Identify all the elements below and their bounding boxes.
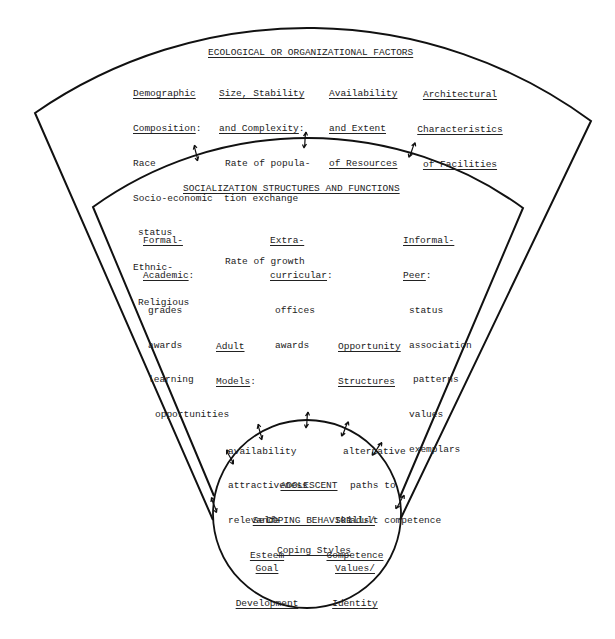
list-item: offices (270, 305, 333, 317)
heading-line: Adult (216, 341, 245, 352)
heading-line: Architectural (423, 89, 497, 100)
list-item: availability (216, 446, 308, 458)
ecological-title: ECOLOGICAL OR ORGANIZATIONAL FACTORS (208, 47, 413, 59)
heading-line: Informal- (403, 235, 454, 246)
heading-line: curricular (270, 270, 327, 281)
heading-suffix: : (299, 123, 305, 134)
heading-line: ADOLESCENT (280, 480, 337, 491)
heading-line: and Extent (329, 123, 386, 134)
heading-line: Formal- (143, 235, 183, 246)
heading-line: Structures (338, 376, 395, 387)
heading-line: Availability (329, 88, 397, 99)
label-line: Development (236, 598, 299, 609)
heading-line: Composition (133, 123, 196, 134)
heading-suffix: : (426, 270, 432, 281)
heading-line: Size, Stability (219, 88, 305, 99)
heading-suffix: : (327, 270, 333, 281)
heading-line: Extra- (270, 235, 304, 246)
heading-suffix: : (250, 376, 256, 387)
heading-line: Models (216, 376, 250, 387)
list-item: Race (133, 158, 213, 170)
heading-line: Characteristics (417, 124, 503, 135)
label-line: Identity (332, 598, 378, 609)
goal-development-label: Goal Development (222, 540, 312, 633)
heading-line: Demographic (133, 88, 196, 99)
list-item: status (403, 305, 472, 317)
heading-line: Academic (143, 270, 189, 281)
list-item: grades (143, 305, 229, 317)
resources-block: Availability and Extent of Resources (329, 65, 397, 193)
label-line: Values/ (335, 563, 375, 574)
values-identity-label: Values/ Identity (310, 540, 400, 633)
heading-suffix: : (189, 270, 195, 281)
list-item: alternative (338, 446, 441, 458)
heading-line: and Complexity (219, 123, 299, 134)
heading-line: Peer (403, 270, 426, 281)
heading-suffix: : (196, 123, 202, 134)
list-item: Rate of popula- (219, 158, 311, 170)
heading-line: of Resources (329, 158, 397, 169)
heading-line: of Facilities (423, 159, 497, 170)
diagram-canvas: ECOLOGICAL OR ORGANIZATIONAL FACTORS Dem… (0, 0, 615, 639)
heading-line: Opportunity (338, 341, 401, 352)
facilities-block: Architectural Characteristics of Facilit… (415, 66, 505, 194)
socialization-title: SOCIALIZATION STRUCTURES AND FUNCTIONS (183, 183, 400, 195)
label-line: Goal (256, 563, 279, 574)
